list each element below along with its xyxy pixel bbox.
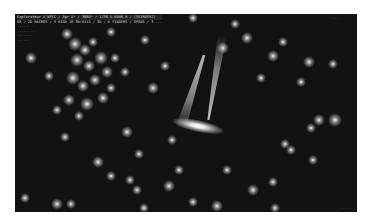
star bbox=[306, 123, 316, 133]
star bbox=[63, 94, 75, 106]
hud-info-line: GR / 2D MACROS / 3 HIGH 1M 30/0115 / 3D … bbox=[17, 20, 162, 25]
star bbox=[121, 126, 133, 138]
star bbox=[256, 73, 266, 83]
star bbox=[147, 82, 159, 94]
star bbox=[174, 165, 184, 175]
star bbox=[296, 77, 306, 87]
upper-jet bbox=[201, 34, 227, 121]
star bbox=[89, 74, 101, 86]
star bbox=[70, 53, 84, 67]
star bbox=[101, 66, 113, 78]
star bbox=[132, 185, 142, 195]
star bbox=[97, 92, 109, 104]
star bbox=[94, 51, 108, 65]
star bbox=[51, 198, 63, 210]
star bbox=[270, 203, 280, 212]
star bbox=[222, 165, 232, 175]
star bbox=[160, 61, 170, 71]
star bbox=[120, 67, 130, 77]
star bbox=[125, 175, 135, 185]
star bbox=[139, 203, 149, 212]
star bbox=[25, 52, 37, 64]
hud-title-line: Explorateur A'NPIC / Sgr A* / 3880* / 17… bbox=[17, 15, 162, 20]
star bbox=[163, 180, 175, 192]
star bbox=[74, 111, 84, 121]
star bbox=[308, 155, 318, 165]
render-viewport[interactable]: Explorateur A'NPIC / Sgr A* / 3880* / 17… bbox=[15, 14, 357, 212]
star bbox=[286, 145, 296, 155]
star bbox=[92, 156, 104, 168]
star bbox=[278, 37, 288, 47]
star bbox=[83, 60, 95, 72]
star bbox=[267, 50, 279, 62]
star bbox=[80, 97, 94, 111]
star bbox=[66, 199, 76, 209]
star bbox=[268, 177, 278, 187]
star bbox=[134, 149, 144, 159]
star bbox=[241, 32, 253, 44]
star bbox=[52, 105, 62, 115]
hud-overlay: Explorateur A'NPIC / Sgr A* / 3880* / 17… bbox=[17, 15, 162, 43]
star bbox=[60, 132, 70, 142]
star bbox=[77, 80, 89, 92]
star bbox=[20, 193, 30, 203]
star bbox=[167, 135, 177, 145]
galaxy-disk bbox=[171, 115, 224, 138]
star bbox=[110, 53, 120, 63]
star bbox=[328, 113, 342, 127]
star bbox=[328, 59, 338, 69]
star bbox=[106, 83, 116, 93]
star bbox=[247, 184, 259, 196]
hud-sub-line: ...... bbox=[17, 38, 162, 43]
star bbox=[230, 19, 240, 29]
star bbox=[303, 56, 315, 68]
star bbox=[188, 197, 198, 207]
star bbox=[211, 200, 223, 212]
star bbox=[44, 71, 54, 81]
top-right-label: .... bbox=[331, 16, 339, 20]
corner-label: ...... bbox=[340, 206, 353, 210]
star bbox=[106, 171, 116, 181]
star bbox=[188, 14, 198, 23]
